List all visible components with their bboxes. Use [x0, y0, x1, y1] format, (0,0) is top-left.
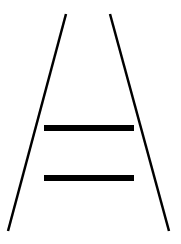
lower-horizontal-bar: [44, 175, 134, 181]
upper-horizontal-bar: [44, 125, 134, 131]
illusion-drawing: [0, 0, 181, 244]
ponzo-illusion-figure: [0, 0, 181, 244]
background: [0, 0, 181, 244]
